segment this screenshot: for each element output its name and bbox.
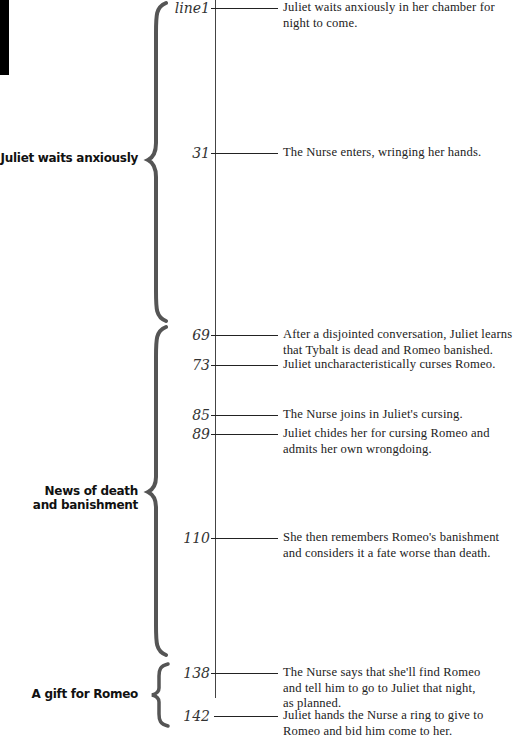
brace-icon bbox=[146, 327, 170, 655]
line-number-label: 138 bbox=[150, 665, 210, 681]
event-connector bbox=[211, 673, 278, 674]
event-connector bbox=[211, 153, 278, 154]
event-connector bbox=[211, 415, 278, 416]
event-description: Juliet chides her for cursing Romeo and … bbox=[283, 426, 515, 457]
section-label-juliet-waits: Juliet waits anxiously bbox=[1, 151, 138, 165]
line-number-label: 31 bbox=[150, 145, 210, 161]
section-label-gift-for-romeo: A gift for Romeo bbox=[32, 687, 138, 701]
section-label-news-of-death: News of death and banishment bbox=[33, 484, 138, 512]
event-description: Juliet waits anxiously in her chamber fo… bbox=[283, 0, 515, 31]
brace-icon bbox=[146, 3, 170, 321]
event-description: Juliet uncharacteristically curses Romeo… bbox=[283, 357, 515, 373]
event-description: The Nurse enters, wringing her hands. bbox=[283, 145, 515, 161]
event-connector bbox=[211, 335, 278, 336]
event-description: After a disjointed conversation, Juliet … bbox=[283, 327, 515, 358]
event-description: Juliet hands the Nurse a ring to give to… bbox=[283, 708, 515, 739]
line-number-label: 142 bbox=[150, 708, 210, 724]
line-number-label: 73 bbox=[150, 357, 210, 373]
line-number-label: 85 bbox=[150, 407, 210, 423]
event-description: She then remembers Romeo's banishment an… bbox=[283, 530, 515, 561]
line-number-label: 110 bbox=[150, 530, 210, 546]
event-description: The Nurse joins in Juliet's cursing. bbox=[283, 407, 515, 423]
event-connector bbox=[211, 8, 278, 9]
line-number-label: 69 bbox=[150, 327, 210, 343]
event-connector bbox=[211, 538, 278, 539]
event-description: The Nurse says that she'll find Romeo an… bbox=[283, 665, 515, 712]
line-number-label: line1 bbox=[150, 0, 210, 16]
line-number-label: 89 bbox=[150, 426, 210, 442]
event-connector bbox=[211, 365, 278, 366]
page-edge-marker bbox=[0, 0, 9, 75]
event-connector bbox=[211, 434, 278, 435]
timeline-axis bbox=[215, 0, 216, 698]
event-connector bbox=[214, 716, 278, 717]
